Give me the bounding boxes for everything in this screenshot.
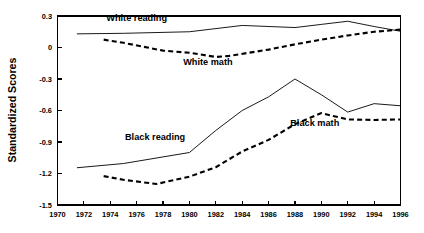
- x-tick-label: 1990: [313, 210, 329, 219]
- y-tick-label: -0.6: [39, 106, 52, 115]
- y-tick-label: -1.2: [39, 169, 52, 178]
- series-line-black-math: [104, 113, 401, 184]
- series-annotation-labels: White readingWhite mathBlack readingBlac…: [106, 13, 339, 143]
- x-axis-tick-labels: 1970197219741976197819801982198419861988…: [49, 210, 408, 219]
- y-tick-label: 0.3: [42, 12, 52, 21]
- x-tick-label: 1992: [340, 210, 356, 219]
- y-axis-ticks: [58, 16, 63, 205]
- x-tick-label: 1994: [366, 210, 383, 219]
- x-tick-label: 1972: [76, 210, 92, 219]
- x-tick-label: 1980: [181, 210, 197, 219]
- axis-frame: [58, 16, 401, 205]
- x-tick-label: 1984: [234, 210, 251, 219]
- line-chart: 0.30-0.3-0.6-0.9-1.2-1.5 197019721974197…: [0, 0, 424, 233]
- x-tick-label: 1970: [49, 210, 65, 219]
- series-label-white-math: White math: [183, 57, 233, 67]
- y-axis-title: Standardized Scores: [6, 57, 18, 162]
- x-tick-label: 1986: [260, 210, 276, 219]
- y-axis-tick-labels: 0.30-0.3-0.6-0.9-1.2-1.5: [39, 12, 52, 210]
- x-tick-label: 1974: [102, 210, 119, 219]
- x-axis-ticks: [58, 201, 401, 206]
- y-tick-label: 0: [48, 43, 52, 52]
- x-tick-label: 1976: [128, 210, 144, 219]
- x-tick-label: 1988: [287, 210, 303, 219]
- x-tick-label: 1996: [392, 210, 408, 219]
- chart-figure: 0.30-0.3-0.6-0.9-1.2-1.5 197019721974197…: [0, 0, 424, 233]
- x-tick-label: 1978: [155, 210, 171, 219]
- y-tick-label: -1.5: [39, 201, 52, 210]
- series-label-black-reading: Black reading: [125, 132, 185, 142]
- series-label-black-math: Black math: [290, 118, 339, 128]
- x-tick-label: 1982: [208, 210, 224, 219]
- series-label-white-reading: White reading: [106, 13, 167, 23]
- series-line-white-math: [104, 30, 401, 57]
- axes-group: [58, 16, 401, 205]
- y-tick-label: -0.9: [39, 138, 52, 147]
- y-tick-label: -0.3: [39, 75, 52, 84]
- series-group: [77, 21, 400, 184]
- series-line-white-reading: [77, 21, 400, 34]
